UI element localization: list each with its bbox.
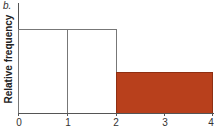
x-tick-label-2: 2 bbox=[110, 117, 122, 128]
bar-bin-0-1 bbox=[18, 29, 68, 114]
y-axis-label: Relative frequency bbox=[3, 24, 14, 104]
bar-bin-1-2 bbox=[67, 29, 117, 114]
x-tick-label-1: 1 bbox=[62, 117, 74, 128]
x-tick-label-0: 0 bbox=[13, 117, 25, 128]
x-tick-0 bbox=[18, 113, 19, 116]
x-tick-2 bbox=[116, 113, 117, 116]
x-tick-label-4: 4 bbox=[205, 117, 214, 128]
x-tick-1 bbox=[67, 113, 68, 116]
panel-label: b. bbox=[3, 0, 11, 11]
bar-bin-2-4 bbox=[116, 72, 213, 114]
x-tick-label-3: 3 bbox=[159, 117, 171, 128]
x-tick-3 bbox=[164, 113, 165, 116]
x-tick-4 bbox=[212, 113, 213, 116]
